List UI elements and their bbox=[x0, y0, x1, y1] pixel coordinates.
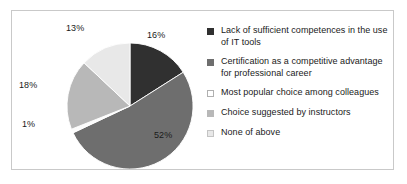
pie-label-suggested-by-instructors: 18% bbox=[19, 80, 37, 90]
pie-label-lack-of-competences: 16% bbox=[147, 30, 165, 40]
legend-item-certification-advantage: Certification as a competitive advantage… bbox=[207, 56, 393, 79]
pie-chart: 13% 16% 18% 1% 52% bbox=[12, 11, 202, 169]
pie-label-none-of-above: 13% bbox=[66, 23, 84, 33]
legend-item-lack-of-competences: Lack of sufficient competences in the us… bbox=[207, 25, 393, 48]
pie-slice-group bbox=[67, 43, 193, 169]
pie-svg bbox=[12, 11, 202, 169]
legend-swatch-icon bbox=[207, 90, 214, 97]
legend-item-label: Lack of sufficient competences in the us… bbox=[221, 25, 393, 48]
pie-label-certification-advantage: 52% bbox=[154, 130, 172, 140]
legend-swatch-icon bbox=[207, 28, 214, 35]
legend-item-label: Certification as a competitive advantage… bbox=[221, 56, 393, 79]
pie-label-most-popular-choice: 1% bbox=[22, 119, 35, 129]
legend-item-label: Choice suggested by instructors bbox=[221, 107, 351, 119]
legend-item-label: Most popular choice among colleagues bbox=[221, 87, 379, 99]
legend-swatch-icon bbox=[207, 59, 214, 66]
legend-item-label: None of above bbox=[221, 127, 280, 139]
legend-item-none-of-above: None of above bbox=[207, 127, 393, 139]
legend-swatch-icon bbox=[207, 110, 214, 117]
chart-legend: Lack of sufficient competences in the us… bbox=[207, 25, 393, 147]
legend-item-most-popular-choice: Most popular choice among colleagues bbox=[207, 87, 393, 99]
legend-item-suggested-by-instructors: Choice suggested by instructors bbox=[207, 107, 393, 119]
chart-frame: 13% 16% 18% 1% 52% Lack of sufficient co… bbox=[11, 10, 394, 170]
legend-swatch-icon bbox=[207, 130, 214, 137]
